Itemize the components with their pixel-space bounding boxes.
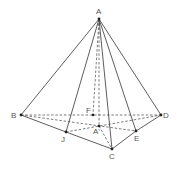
label-A: A — [96, 7, 102, 16]
edge-BJ — [21, 115, 66, 132]
point-D — [160, 114, 163, 117]
point-B — [20, 114, 23, 117]
diagram-svg: A B C D E J F A' — [0, 0, 180, 171]
point-C — [111, 148, 114, 151]
edge-AF — [93, 19, 99, 115]
label-A-prime: A' — [93, 127, 100, 136]
point-A — [98, 18, 101, 21]
edge-JD — [66, 115, 161, 132]
edge-AD — [99, 19, 161, 115]
solid-edges — [21, 19, 161, 149]
label-J: J — [61, 135, 65, 144]
label-E: E — [134, 134, 139, 143]
edge-AB — [21, 19, 99, 115]
edge-BE — [21, 115, 136, 131]
dashed-edges — [21, 19, 161, 149]
label-F: F — [86, 106, 91, 115]
label-D: D — [163, 111, 169, 120]
point-E — [135, 130, 138, 133]
point-F — [92, 114, 95, 117]
point-J — [65, 131, 68, 134]
edge-JC — [66, 132, 112, 149]
label-C: C — [109, 152, 115, 161]
label-B: B — [11, 111, 16, 120]
edge-CE — [112, 131, 136, 149]
pyramid-diagram: A B C D E J F A' — [0, 0, 180, 171]
